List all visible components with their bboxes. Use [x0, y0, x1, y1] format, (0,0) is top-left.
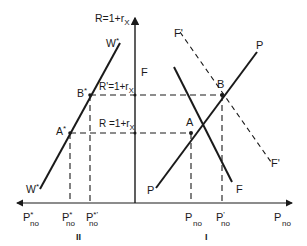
point-a-star [68, 131, 72, 135]
point-a-star-label: A* [56, 124, 66, 137]
point-b [220, 93, 224, 97]
p-bottom-label: P [147, 184, 154, 196]
point-b-label: B [217, 78, 224, 90]
f-prime-curve [180, 32, 271, 162]
region-i-label: I [205, 232, 208, 242]
f-prime-top-label: F' [174, 27, 183, 39]
r-prime-label: R'=1+rX [99, 81, 134, 95]
region-ii-label: II [76, 232, 81, 242]
point-a [189, 131, 193, 135]
point-a-label: A [186, 116, 194, 128]
axis-left-label: P*no [23, 210, 39, 228]
vertical-axis-label: R=1+rX [95, 12, 130, 27]
f-prime-bottom-label: F' [271, 157, 280, 169]
p-curve [156, 52, 257, 188]
w-star-bottom-label: W* [26, 182, 39, 195]
tick-p-no: Pno [185, 211, 202, 228]
axis-right-label: Pno [274, 211, 291, 228]
tick-p-prime-no: P'no [216, 210, 230, 228]
p-top-label: P [256, 39, 263, 51]
r-label: R =1+rX [99, 118, 135, 132]
axis-mark-r-prime [134, 94, 137, 97]
w-star-curve [40, 43, 120, 189]
tick-p-star-no: P*no [62, 210, 75, 228]
f-bottom-label: F [236, 183, 243, 195]
f-top-label: F [141, 66, 148, 78]
diagram-canvas: R=1+rX W* W* F F F' F' P P A B A* B* R'=… [0, 0, 307, 246]
point-b-star-label: B* [77, 86, 87, 99]
tick-p-star-prime-no: P*'no [86, 210, 98, 228]
point-b-star [88, 93, 92, 97]
